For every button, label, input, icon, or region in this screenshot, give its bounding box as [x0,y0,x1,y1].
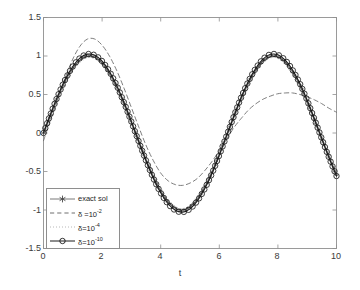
legend-label-delta-10-base: δ=10 [78,238,95,247]
legend-label-delta-2: δ =10-2 [76,207,102,219]
legend-swatch-delta-4 [49,221,76,233]
legend-item-delta-2[interactable]: δ =10-2 [49,206,117,220]
legend-label-delta-10-exp: -10 [95,236,103,242]
chart-legend[interactable]: exact sol δ =10-2 δ=10-4 [46,188,120,249]
legend-label-exact-sol: exact sol [76,195,108,203]
series-1 [44,38,337,185]
legend-swatch-delta-2 [49,207,76,219]
legend-swatch-exact-sol [49,193,76,205]
legend-label-delta-4: δ=10-4 [76,221,100,233]
legend-item-delta-10[interactable]: δ=10-10 [49,234,117,248]
legend-item-exact-sol[interactable]: exact sol [49,192,117,206]
legend-item-delta-4[interactable]: δ=10-4 [49,220,117,234]
figure-canvas: 1.5 1 0.5 0 -0.5 -1 -1.5 0 2 4 6 8 10 t [0,0,360,290]
legend-label-delta-4-base: δ=10 [78,224,95,233]
legend-label-delta-2-exp: -2 [97,208,102,214]
legend-label-delta-4-exp: -4 [95,222,100,228]
legend-label-delta-10: δ=10-10 [76,235,103,247]
legend-swatch-delta-10 [49,235,76,247]
legend-label-delta-2-base: δ =10 [78,210,97,219]
